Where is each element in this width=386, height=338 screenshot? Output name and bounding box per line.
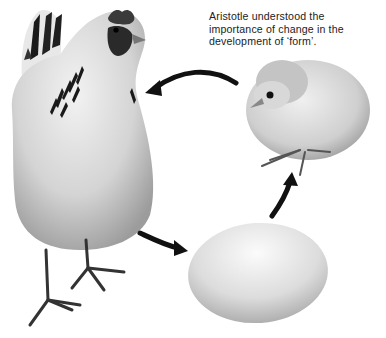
egg-illustration bbox=[185, 218, 332, 328]
chick-illustration bbox=[246, 60, 370, 175]
arrow-hen-to-egg-icon bbox=[140, 233, 178, 248]
arrow-chick-to-hen-icon bbox=[155, 72, 236, 88]
life-cycle-illustration bbox=[0, 0, 386, 338]
hen-illustration bbox=[12, 10, 153, 325]
arrow-egg-to-chick-icon bbox=[272, 182, 290, 216]
